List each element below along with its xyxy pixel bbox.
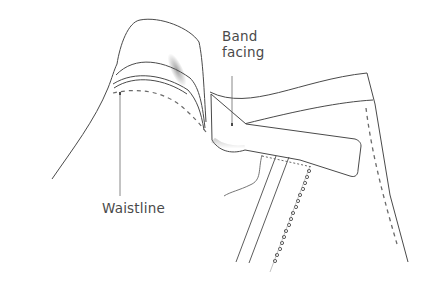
waistline-label: Waistline bbox=[102, 200, 165, 216]
band-facing-label-line1: Band bbox=[222, 28, 282, 44]
fold-shadow bbox=[164, 51, 190, 89]
band-facing-label-line2: facing bbox=[222, 44, 282, 60]
waistline-pointer-dot bbox=[119, 92, 121, 95]
diagram-canvas: Band facing Waistline bbox=[0, 0, 433, 294]
band-facing-label: Band facing bbox=[222, 28, 282, 60]
band-facing-pointer-dot bbox=[231, 123, 233, 126]
garment-illustration bbox=[0, 0, 433, 294]
garment-right-panel bbox=[210, 73, 408, 262]
zipper-teeth bbox=[270, 166, 311, 272]
side-seam-stitching bbox=[366, 108, 397, 244]
waistline-stitching bbox=[113, 91, 206, 132]
garment-left-panel bbox=[52, 19, 206, 179]
